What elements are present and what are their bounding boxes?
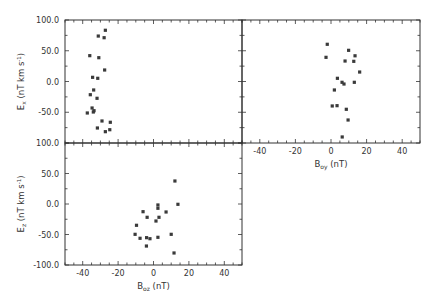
x-axis-label: Boy (nT) xyxy=(315,159,348,171)
data-point xyxy=(100,119,103,122)
data-point xyxy=(336,77,339,80)
data-point xyxy=(92,110,95,113)
data-point xyxy=(88,54,91,57)
data-point xyxy=(96,77,99,80)
y-axis-label: Ex (nT km s-1) xyxy=(16,53,27,110)
plot-frame xyxy=(65,20,242,143)
x-axis-label: Boz (nT) xyxy=(137,281,170,292)
y-tick-label: 50.0 xyxy=(41,47,59,56)
x-tick-label: 40 xyxy=(397,147,407,156)
x-tick-label: -40 xyxy=(253,147,266,156)
data-point xyxy=(331,104,334,107)
x-tick-label: 0 xyxy=(151,269,156,278)
data-point xyxy=(170,233,173,236)
data-point xyxy=(148,237,151,240)
data-point xyxy=(326,43,329,46)
data-point xyxy=(96,126,99,129)
x-tick-label: -20 xyxy=(112,269,125,278)
data-point xyxy=(104,130,107,133)
panel-bottom-left: 100.050.00.0-50.0-100.0-40-2002040Boz (n… xyxy=(16,139,242,292)
data-point xyxy=(109,121,112,124)
data-point xyxy=(156,207,159,210)
data-point xyxy=(173,179,176,182)
data-point xyxy=(352,60,355,63)
x-tick-label: 20 xyxy=(362,147,372,156)
y-tick-label: 0.0 xyxy=(46,200,59,209)
data-point xyxy=(172,251,175,254)
data-point xyxy=(91,76,94,79)
data-point xyxy=(353,54,356,57)
data-point xyxy=(104,29,107,32)
data-point xyxy=(156,236,159,239)
data-point xyxy=(86,111,89,114)
y-tick-label: -50.0 xyxy=(38,231,59,240)
y-tick-label: 0.0 xyxy=(46,78,59,87)
data-point xyxy=(345,108,348,111)
x-tick-label: 40 xyxy=(219,269,229,278)
y-tick-label: -50.0 xyxy=(38,108,59,117)
data-point xyxy=(346,118,349,121)
data-point xyxy=(164,210,167,213)
data-point xyxy=(333,88,336,91)
data-point xyxy=(335,104,338,107)
data-point xyxy=(353,81,356,84)
x-tick-label: 0 xyxy=(328,147,333,156)
panel-top-left: 100.050.00.0-50.0Ex (nT km s-1) xyxy=(16,16,242,143)
data-point xyxy=(342,82,345,85)
data-point xyxy=(103,68,106,71)
data-point xyxy=(358,70,361,73)
data-point xyxy=(343,59,346,62)
y-tick-label: -100.0 xyxy=(33,261,59,270)
panel-top-right: -40-2002040Boy (nT) xyxy=(242,20,420,171)
data-point xyxy=(341,135,344,138)
data-point xyxy=(146,216,149,219)
data-point xyxy=(133,233,136,236)
data-point xyxy=(157,216,160,219)
y-tick-label: 100.0 xyxy=(36,16,59,25)
data-point xyxy=(103,36,106,39)
y-tick-label: 100.0 xyxy=(36,139,59,148)
x-tick-label: -20 xyxy=(289,147,302,156)
data-point xyxy=(135,224,138,227)
data-point xyxy=(145,236,148,239)
data-point xyxy=(92,88,95,91)
data-point xyxy=(154,219,157,222)
data-point xyxy=(108,128,111,131)
x-tick-label: 20 xyxy=(184,269,194,278)
y-tick-label: 50.0 xyxy=(41,170,59,179)
data-point xyxy=(145,244,148,247)
data-point xyxy=(89,93,92,96)
plot-frame xyxy=(242,20,420,143)
data-point xyxy=(347,49,350,52)
plot-frame xyxy=(65,143,242,265)
data-point xyxy=(156,203,159,206)
data-point xyxy=(141,210,144,213)
data-point xyxy=(138,237,141,240)
y-axis-label: Ez (nT km s-1) xyxy=(16,176,27,233)
data-point xyxy=(324,56,327,59)
data-point xyxy=(176,203,179,206)
data-point xyxy=(95,97,98,100)
x-tick-label: -40 xyxy=(76,269,89,278)
data-point xyxy=(97,34,100,37)
scatter-plot-figure: 100.050.00.0-50.0Ex (nT km s-1)-40-20020… xyxy=(0,0,437,305)
data-point xyxy=(97,56,100,59)
